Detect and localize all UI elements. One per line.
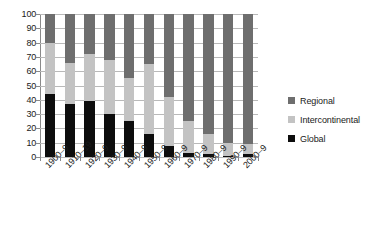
legend-swatch-icon: [288, 135, 295, 142]
bar-segment-regional[interactable]: [243, 14, 253, 144]
bar-segment-intercontinental[interactable]: [124, 78, 134, 121]
y-axis-tick-label: 0: [0, 153, 36, 162]
bar-segment-regional[interactable]: [65, 14, 75, 63]
bar-stack: [45, 14, 55, 157]
bar-segment-intercontinental[interactable]: [45, 43, 55, 94]
chart-legend: RegionalIntercontinentalGlobal: [288, 91, 388, 148]
bar-segment-intercontinental[interactable]: [164, 97, 174, 146]
bar-segment-intercontinental[interactable]: [65, 63, 75, 104]
legend-label: Intercontinental: [300, 115, 360, 125]
x-axis-tick-mark: [159, 157, 160, 161]
bar-stack: [164, 14, 174, 157]
x-axis-tick-mark: [258, 157, 259, 161]
y-axis-tick-label: 30: [0, 110, 36, 119]
bar-stack: [124, 14, 134, 157]
bar-segment-regional[interactable]: [84, 14, 94, 54]
bar-group[interactable]: [65, 14, 75, 157]
y-axis-tick-label: 10: [0, 138, 36, 147]
bar-segment-regional[interactable]: [203, 14, 213, 134]
legend-label: Global: [300, 134, 325, 144]
y-axis-tick-labels: 0102030405060708090100: [0, 14, 36, 157]
y-axis-tick-label: 90: [0, 24, 36, 33]
x-axis-tick-mark: [80, 157, 81, 161]
y-axis-tick-label: 70: [0, 52, 36, 61]
legend-item[interactable]: Regional: [288, 91, 388, 110]
bar-segment-regional[interactable]: [104, 14, 114, 60]
x-axis-tick-mark: [199, 157, 200, 161]
bar-stack: [65, 14, 75, 157]
x-axis-tick-mark: [40, 157, 41, 161]
bar-group[interactable]: [84, 14, 94, 157]
bar-group[interactable]: [183, 14, 193, 157]
legend-swatch-icon: [288, 116, 295, 123]
y-axis-tick-label: 60: [0, 67, 36, 76]
y-axis-tick-label: 40: [0, 95, 36, 104]
bar-segment-intercontinental[interactable]: [104, 60, 114, 114]
bar-segment-intercontinental[interactable]: [144, 64, 154, 134]
bar-segment-global[interactable]: [45, 94, 55, 157]
x-axis-tick-mark: [218, 157, 219, 161]
bar-group[interactable]: [45, 14, 55, 157]
bar-stack: [243, 14, 253, 157]
legend-item[interactable]: Global: [288, 129, 388, 148]
stacked-bar-chart: 0102030405060708090100 RegionalIntercont…: [0, 0, 390, 228]
y-axis-tick-label: 100: [0, 10, 36, 19]
bar-segment-regional[interactable]: [144, 14, 154, 64]
x-axis-tick-mark: [139, 157, 140, 161]
x-axis-tick-mark: [60, 157, 61, 161]
bar-segment-regional[interactable]: [223, 14, 233, 143]
bar-segment-regional[interactable]: [183, 14, 193, 121]
bar-group[interactable]: [124, 14, 134, 157]
legend-item[interactable]: Intercontinental: [288, 110, 388, 129]
bar-segment-regional[interactable]: [45, 14, 55, 43]
bar-segment-intercontinental[interactable]: [84, 54, 94, 101]
bar-stack: [183, 14, 193, 157]
x-axis-tick-mark: [119, 157, 120, 161]
y-axis-tick-label: 20: [0, 124, 36, 133]
bar-group[interactable]: [223, 14, 233, 157]
bar-group[interactable]: [144, 14, 154, 157]
bar-stack: [84, 14, 94, 157]
x-axis-tick-mark: [179, 157, 180, 161]
bar-stack: [104, 14, 114, 157]
bar-group[interactable]: [243, 14, 253, 157]
bar-group[interactable]: [203, 14, 213, 157]
y-axis-tick-label: 80: [0, 38, 36, 47]
x-axis-tick-mark: [99, 157, 100, 161]
legend-label: Regional: [300, 96, 335, 106]
plot-area: [40, 14, 258, 157]
bar-group[interactable]: [104, 14, 114, 157]
y-axis-tick-label: 50: [0, 81, 36, 90]
x-axis-tick-mark: [238, 157, 239, 161]
bar-stack: [203, 14, 213, 157]
bar-segment-regional[interactable]: [124, 14, 134, 78]
legend-swatch-icon: [288, 97, 295, 104]
bar-segment-regional[interactable]: [164, 14, 174, 97]
bar-stack: [144, 14, 154, 157]
bar-group[interactable]: [164, 14, 174, 157]
bar-stack: [223, 14, 233, 157]
